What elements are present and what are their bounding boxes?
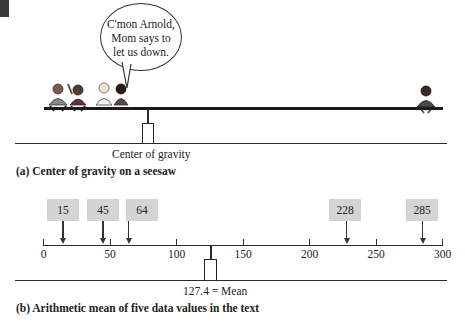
corner-marker (0, 0, 9, 17)
axis-tick-label: 50 (104, 248, 116, 260)
speech-line-2: Mom says to (107, 31, 175, 45)
data-value-box: 64 (126, 199, 158, 221)
axis-tick (376, 239, 377, 245)
axis-tick-label: 150 (234, 248, 251, 260)
data-arrow (346, 221, 347, 239)
data-value-box: 45 (87, 199, 119, 221)
data-value-box: 228 (329, 199, 361, 221)
arrowhead-icon (126, 238, 132, 244)
data-arrow (128, 221, 129, 239)
axis-tick (309, 239, 310, 245)
data-arrow (102, 221, 103, 239)
axis-tick-label: 100 (168, 248, 185, 260)
mean-fulcrum-stem (210, 245, 212, 260)
seesaw-fulcrum (142, 123, 154, 144)
arrowhead-icon (420, 238, 426, 244)
axis-tick-label: 300 (434, 248, 451, 260)
seesaw-ground-line (15, 143, 447, 144)
mean-ground-line (15, 280, 447, 281)
axis-tick-label: 200 (301, 248, 318, 260)
axis-tick (243, 239, 244, 245)
axis-tick (110, 239, 111, 245)
mean-fulcrum (204, 259, 217, 281)
axis-tick-label: 250 (367, 248, 384, 260)
mean-label: 127.4 = Mean (183, 285, 247, 297)
caption-a: (a) Center of gravity on a seesaw (16, 165, 176, 177)
axis-tick (43, 239, 44, 245)
data-value-box: 15 (47, 199, 79, 221)
seesaw-fulcrum-stem (147, 109, 149, 123)
speech-bubble: C'mon Arnold, Mom says to let us down. (100, 3, 182, 71)
arrowhead-icon (100, 238, 106, 244)
arrowhead-icon (344, 238, 350, 244)
arrowhead-icon (60, 238, 66, 244)
arnold-figure-icon (414, 84, 438, 116)
caption-b: (b) Arithmetic mean of five data values … (16, 302, 259, 314)
speech-line-3: let us down. (107, 45, 175, 59)
seesaw-beam (44, 107, 443, 110)
axis-tick (442, 239, 443, 245)
axis-tick-label: 0 (41, 248, 47, 260)
children-group-icon (44, 80, 134, 116)
center-of-gravity-label: Center of gravity (112, 148, 191, 160)
axis-tick (176, 239, 177, 245)
data-arrow (422, 221, 423, 239)
speech-line-1: C'mon Arnold, (107, 17, 175, 31)
data-arrow (62, 221, 63, 239)
data-value-box: 285 (406, 199, 438, 221)
